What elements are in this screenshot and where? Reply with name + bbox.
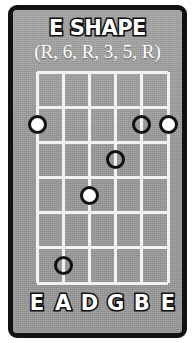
fret-marker-4	[106, 150, 125, 169]
string-label-5: B	[134, 290, 150, 316]
nut-line	[37, 71, 168, 74]
fretboard-grid	[37, 72, 168, 283]
fret-marker-5	[80, 186, 99, 205]
fret-line-2	[37, 141, 168, 144]
page-title: E SHAPE	[13, 16, 182, 40]
string-label-4: G	[107, 290, 124, 316]
fret-marker-2	[132, 115, 151, 134]
fret-line-6	[37, 282, 168, 285]
fret-marker-6	[54, 256, 73, 275]
fret-line-1	[37, 106, 168, 109]
fret-line-3	[37, 176, 168, 179]
string-label-row: EADGBE	[37, 290, 168, 324]
interval-formula: (R, 6, R, 3, 5, R)	[13, 41, 182, 63]
fret-line-4	[37, 211, 168, 214]
string-label-1: E	[30, 290, 44, 316]
string-label-3: D	[81, 290, 98, 316]
fret-marker-3	[159, 115, 178, 134]
fret-line-5	[37, 246, 168, 249]
fret-marker-1	[28, 115, 47, 134]
chord-shape-card: E SHAPE (R, 6, R, 3, 5, R) EADGBE	[8, 5, 187, 338]
string-label-2: A	[55, 290, 71, 316]
string-label-6: E	[161, 290, 175, 316]
